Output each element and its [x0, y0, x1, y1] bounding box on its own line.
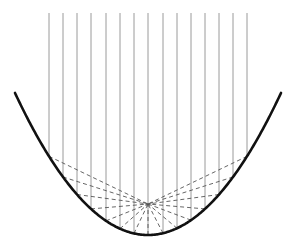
reflected-ray	[148, 204, 163, 233]
reflected-ray	[148, 204, 191, 220]
diagram-canvas	[0, 0, 291, 248]
reflected-ray	[134, 204, 148, 233]
parabolic-reflector-diagram	[0, 0, 291, 248]
reflected-ray	[106, 204, 148, 221]
incident-rays	[49, 13, 247, 235]
